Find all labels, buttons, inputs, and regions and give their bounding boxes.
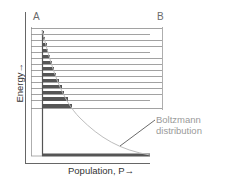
x-axis-label: Population, P→: [68, 166, 134, 176]
diagram-graphic: [0, 0, 225, 184]
annotation-line-1: Boltzmann: [156, 114, 202, 125]
corner-label-a: A: [33, 12, 40, 22]
boltzmann-diagram: A B Energy→ Population, P→ Boltzmann dis…: [0, 0, 225, 184]
corner-label-b: B: [157, 12, 164, 22]
annotation-leader: [120, 120, 155, 146]
annotation-line-2: distribution: [156, 125, 202, 136]
population-bars: [42, 31, 150, 157]
boltzmann-annotation: Boltzmann distribution: [156, 114, 202, 136]
y-axis-label: Energy→: [15, 59, 25, 107]
